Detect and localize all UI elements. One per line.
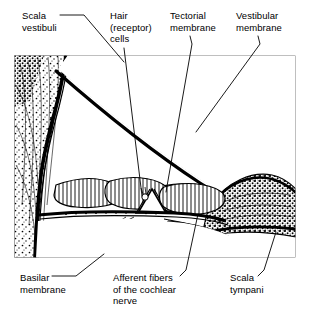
cochlea-illustration [14,55,296,258]
label-scala-tympani: Scala tympani [230,272,264,295]
label-basilar-membrane: Basilar membrane [20,272,66,295]
label-hair-cells: Hair (receptor) cells [110,10,152,45]
label-hair-cells-line2: (receptor) [110,22,152,33]
label-tectorial-membrane: Tectorial membrane [170,10,216,33]
label-scala-tympani-line1: Scala [230,272,254,283]
label-tectorial-membrane-line1: Tectorial [170,10,206,21]
label-scala-vestibuli-line2: vestibuli [22,22,57,33]
label-basilar-membrane-line1: Basilar [20,272,49,283]
label-scala-tympani-line2: tympani [230,284,264,295]
label-tectorial-membrane-line2: membrane [170,22,216,33]
label-vestibular-membrane-line1: Vestibular [236,10,278,21]
label-scala-vestibuli-line1: Scala [22,10,46,21]
figure-cochlea-cross-section: Scala vestibuli Hair (receptor) cells Te… [0,0,311,319]
label-vestibular-membrane: Vestibular membrane [236,10,282,33]
label-hair-cells-line1: Hair [110,10,128,21]
label-afferent-fibers: Afferent fibers of the cochlear nerve [113,272,176,307]
label-basilar-membrane-line2: membrane [20,284,66,295]
label-afferent-fibers-line2: of the cochlear [113,284,176,295]
label-hair-cells-line3: cells [110,33,129,44]
label-vestibular-membrane-line2: membrane [236,22,282,33]
label-afferent-fibers-line1: Afferent fibers [113,272,173,283]
label-afferent-fibers-line3: nerve [113,295,137,306]
label-scala-vestibuli: Scala vestibuli [22,10,57,33]
